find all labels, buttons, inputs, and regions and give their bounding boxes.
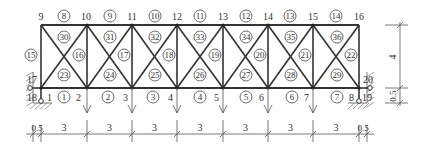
svg-text:5: 5 [214, 92, 219, 103]
svg-text:14: 14 [263, 11, 273, 22]
member-label-bottom: 3 [147, 91, 159, 103]
svg-text:28: 28 [287, 70, 297, 80]
svg-text:19: 19 [362, 92, 372, 103]
svg-text:18: 18 [165, 50, 175, 60]
svg-text:1: 1 [47, 92, 52, 103]
member-label-top: 11 [194, 10, 206, 22]
svg-text:8: 8 [62, 11, 67, 21]
svg-text:11: 11 [196, 11, 205, 21]
svg-text:33: 33 [196, 32, 206, 42]
svg-text:9: 9 [108, 11, 113, 21]
svg-text:24: 24 [106, 70, 116, 80]
svg-text:16: 16 [75, 50, 85, 60]
support-hinge-17 [28, 86, 33, 91]
svg-text:25: 25 [151, 70, 161, 80]
member-label-lower-diagonal: 29 [331, 69, 343, 81]
svg-text:36: 36 [333, 32, 343, 42]
member-label-bottom: 6 [286, 91, 298, 103]
svg-text:2: 2 [106, 92, 111, 102]
svg-text:3: 3 [198, 122, 203, 133]
member-label-top: 8 [58, 10, 70, 22]
arrow-down-icon [83, 88, 91, 113]
member-label-upper-diagonal: 30 [58, 31, 70, 43]
svg-text:10: 10 [81, 11, 91, 22]
svg-text:4: 4 [198, 92, 203, 102]
svg-text:20: 20 [363, 74, 373, 85]
svg-text:3: 3 [107, 122, 112, 133]
svg-text:6: 6 [259, 92, 264, 103]
svg-text:31: 31 [106, 32, 115, 42]
svg-text:9: 9 [39, 11, 44, 22]
svg-text:7: 7 [335, 92, 340, 102]
arrow-down-icon [173, 88, 181, 113]
svg-text:30: 30 [60, 32, 70, 42]
svg-text:12: 12 [172, 11, 182, 22]
member-label-vertical: 15 [25, 49, 37, 61]
svg-text:2: 2 [76, 92, 81, 103]
member-label-upper-diagonal: 35 [285, 31, 297, 43]
svg-text:13: 13 [218, 11, 228, 22]
svg-text:3: 3 [334, 122, 339, 133]
member-label-top: 12 [240, 10, 252, 22]
member-label-upper-diagonal: 31 [104, 31, 116, 43]
truss-diagram: 0.5 3 3 3 3 3 3 3 0.5 4 0.5 9 10 11 12 1… [0, 0, 427, 149]
svg-text:10: 10 [151, 11, 161, 21]
member-label-lower-diagonal: 23 [58, 69, 70, 81]
svg-text:34: 34 [242, 32, 252, 42]
svg-text:1: 1 [62, 92, 67, 102]
dim-height-0.5: 0.5 [388, 90, 398, 102]
svg-text:7: 7 [304, 92, 309, 103]
member-label-vertical: 21 [299, 49, 311, 61]
member-label-top: 14 [330, 10, 342, 22]
svg-text:12: 12 [242, 11, 251, 21]
member-label-upper-diagonal: 36 [331, 31, 343, 43]
member-label-upper-diagonal: 33 [194, 31, 206, 43]
svg-text:14: 14 [332, 11, 342, 21]
member-label-vertical: 17 [118, 49, 130, 61]
member-label-top: 10 [149, 10, 161, 22]
svg-text:6: 6 [290, 92, 295, 102]
svg-text:3: 3 [243, 122, 248, 133]
svg-text:3: 3 [123, 92, 128, 103]
svg-text:20: 20 [256, 50, 266, 60]
member-label-bottom: 4 [194, 91, 206, 103]
svg-text:26: 26 [196, 70, 206, 80]
svg-text:15: 15 [27, 50, 37, 60]
arrow-down-icon [219, 88, 227, 113]
member-label-upper-diagonal: 32 [149, 31, 161, 43]
svg-text:16: 16 [354, 11, 364, 22]
member-label-lower-diagonal: 27 [240, 69, 252, 81]
member-label-vertical: 16 [73, 49, 85, 61]
svg-text:4: 4 [168, 92, 173, 103]
member-label-vertical: 20 [254, 49, 266, 61]
member-label-bottom: 2 [102, 91, 114, 103]
svg-text:15: 15 [308, 11, 318, 22]
member-labels: 8 9 10 11 12 13 14 1 2 3 4 5 6 7 15 16 1… [25, 10, 357, 103]
member-label-top: 13 [284, 10, 296, 22]
support-hinge-18 [39, 99, 44, 104]
svg-text:3: 3 [152, 122, 157, 133]
svg-text:32: 32 [151, 32, 160, 42]
svg-text:21: 21 [301, 50, 310, 60]
svg-text:22: 22 [347, 50, 356, 60]
svg-text:3: 3 [62, 122, 67, 133]
dim-left-0.5: 0.5 [31, 123, 43, 133]
member-label-lower-diagonal: 28 [285, 69, 297, 81]
member-label-vertical: 18 [163, 49, 175, 61]
member-label-lower-diagonal: 24 [104, 69, 116, 81]
support-hinge-20 [368, 86, 373, 91]
member-label-bottom: 1 [58, 91, 70, 103]
arrow-down-icon [264, 88, 272, 113]
svg-text:17: 17 [120, 50, 130, 60]
dim-height-4: 4 [387, 55, 398, 60]
support-hinge-19 [357, 99, 362, 104]
svg-text:3: 3 [288, 122, 293, 133]
svg-text:17: 17 [27, 74, 37, 85]
member-label-vertical: 22 [345, 49, 357, 61]
svg-text:35: 35 [287, 32, 297, 42]
svg-text:29: 29 [333, 70, 343, 80]
svg-text:27: 27 [242, 70, 252, 80]
arrow-down-icon [309, 88, 317, 113]
svg-text:19: 19 [211, 50, 221, 60]
member-label-lower-diagonal: 25 [149, 69, 161, 81]
